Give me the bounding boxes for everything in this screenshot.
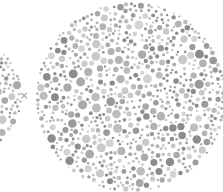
dot-plates-canvas: [0, 0, 223, 192]
right-dot-plate: [36, 2, 223, 192]
multiply-separator-icon: ×: [19, 89, 29, 103]
